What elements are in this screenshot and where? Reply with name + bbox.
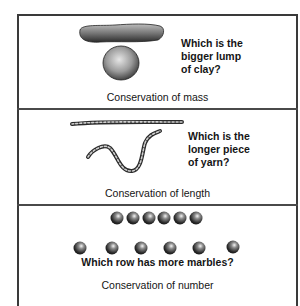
mass-question: Which is the bigger lump of clay? bbox=[181, 37, 243, 76]
marble-row-spread bbox=[74, 241, 240, 255]
number-question: Which row has more marbles? bbox=[19, 256, 296, 269]
clay-roll-icon bbox=[80, 24, 164, 42]
marble-icon bbox=[227, 241, 240, 254]
marble-icon bbox=[158, 212, 171, 225]
marble-icon bbox=[127, 212, 140, 225]
marble-icon bbox=[74, 242, 87, 255]
marble-icon bbox=[193, 242, 206, 255]
mass-caption: Conservation of mass bbox=[19, 91, 296, 103]
marble-icon bbox=[190, 212, 203, 225]
length-question: Which is the longer piece of yarn? bbox=[188, 130, 250, 169]
curved-yarn-icon bbox=[88, 131, 160, 171]
marble-icon bbox=[143, 212, 156, 225]
straight-yarn-icon bbox=[72, 122, 182, 124]
marble-row-compact bbox=[111, 212, 203, 225]
length-caption: Conservation of length bbox=[19, 187, 296, 199]
marble-icon bbox=[111, 212, 124, 225]
marble-icon bbox=[164, 242, 177, 255]
marble-icon bbox=[106, 242, 119, 255]
clay-ball-icon bbox=[103, 46, 139, 80]
marble-icon bbox=[174, 212, 187, 225]
marble-icon bbox=[135, 242, 148, 255]
number-caption: Conservation of number bbox=[19, 279, 296, 291]
